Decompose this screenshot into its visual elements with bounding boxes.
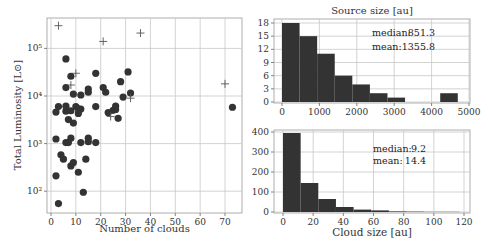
histogram-bar [317,54,335,102]
scatter-x-axis-label: Number of clouds [99,223,190,234]
y-tick-label: 10⁵ [27,43,42,53]
histogram-bar [440,93,458,102]
y-tick-label: 10⁴ [27,91,42,101]
data-point-circle [55,103,62,110]
data-point-circle [70,159,77,166]
y-tick-label: 0 [263,207,269,217]
histogram-bar [371,210,389,212]
histogram-source-size-y-ticks: 0369121518 [258,18,274,107]
data-point-circle [70,90,77,97]
data-point-circle [62,55,69,62]
y-tick-label: 3 [263,84,269,94]
data-point-circle [82,156,89,163]
histogram-cloud-size-x-axis-label: Cloud size [au] [332,226,412,238]
y-tick-label: 15 [258,31,270,41]
histogram-bar [387,98,405,102]
data-point-circle [115,115,122,122]
histogram-source-size: Source size [au] 010002000300040005000 0… [258,5,481,117]
data-point-circle [85,135,92,142]
data-point-circle [80,189,87,196]
histogram-bar [370,93,388,102]
data-point-circle [85,85,92,92]
y-tick-label: 12 [258,44,269,54]
y-tick-label: 10² [27,186,42,196]
source-size-mean-label: mean: [372,41,402,52]
data-point-circle [75,105,82,112]
data-point-circle [124,68,131,75]
x-tick-label: 60 [194,217,206,227]
cloud-size-mean-label: mean: [373,155,403,166]
data-point-circle [229,104,236,111]
source-size-mean-value: 1355.8 [402,41,435,52]
y-tick-label: 18 [258,18,270,28]
histogram-source-size-x-ticks: 010002000300040005000 [279,103,481,117]
data-point-circle [52,135,59,142]
x-tick-label: 0 [279,107,285,117]
x-tick-label: 120 [455,217,472,227]
histogram-cloud-size: 020406080100120 0100200300400 median: 9.… [252,127,473,238]
data-point-circle [77,91,84,98]
y-tick-label: 200 [252,167,269,177]
y-tick-label: 0 [263,97,269,107]
x-tick-label: 3000 [383,107,406,117]
data-point-circle [77,139,84,146]
cloud-size-median-value: 9.2 [411,143,426,154]
x-tick-label: 1000 [308,107,331,117]
histogram-bar [336,207,354,212]
data-point-circle [119,93,126,100]
scatter-y-axis-label: Total Luminosity [L⊙] [12,60,23,171]
data-point-circle [117,78,124,85]
histogram-bar [318,199,336,212]
x-tick-label: 100 [425,217,442,227]
data-point-circle [70,119,77,126]
scatter-plot-luminosity-vs-clouds: 010203040506070 10²10³10⁴10⁵ Number of c… [12,18,242,234]
x-tick-label: 0 [280,217,286,227]
source-size-median-label: median: [372,27,411,38]
data-point-circle [92,103,99,110]
figure: 010203040506070 10²10³10⁴10⁵ Number of c… [0,0,488,248]
source-size-median-value: 851.3 [408,27,435,38]
data-point-circle [92,70,99,77]
y-tick-label: 100 [252,187,269,197]
y-tick-label: 400 [252,127,269,137]
histogram-bar [389,211,407,212]
histogram-bar [335,76,353,102]
histogram-cloud-size-x-ticks: 020406080100120 [280,213,473,227]
histogram-bar [282,23,300,102]
x-tick-label: 5000 [458,107,481,117]
histogram-bar [352,84,370,102]
cloud-size-median-label: median: [373,143,412,154]
x-tick-label: 0 [48,217,54,227]
x-tick-label: 10 [70,217,82,227]
data-point-circle [112,103,119,110]
histogram-bar [300,36,318,102]
data-point-circle [55,200,62,207]
histogram-bar [301,183,319,212]
y-tick-label: 10³ [27,139,42,149]
data-point-circle [52,172,59,179]
x-tick-label: 2000 [345,107,368,117]
y-tick-label: 9 [263,58,269,68]
histogram-source-size-title: Source size [au] [331,5,413,16]
data-point-circle [75,169,82,176]
histogram-bar [354,210,372,212]
y-tick-label: 6 [263,71,269,81]
data-point-circle [67,135,74,142]
histogram-cloud-size-y-ticks: 0100200300400 [252,127,274,217]
data-point-circle [60,156,67,163]
cloud-size-mean-value: 14.4 [405,155,426,166]
y-tick-label: 300 [252,147,269,157]
x-tick-label: 20 [307,217,319,227]
data-point-circle [92,139,99,146]
x-tick-label: 4000 [420,107,443,117]
data-point-circle [102,89,109,96]
x-tick-label: 70 [219,217,231,227]
scatter-y-ticks: 10²10³10⁴10⁵ [27,43,47,196]
histogram-bar [283,133,301,212]
